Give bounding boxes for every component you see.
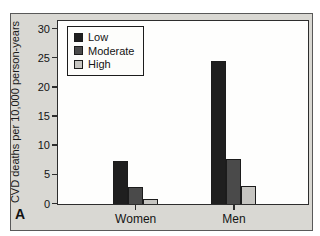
category-label-women: Women: [96, 212, 176, 226]
y-tick-mark: [52, 57, 57, 59]
bar-women-low: [113, 161, 128, 204]
y-axis-label: CVD deaths per 10,000 person-years: [9, 12, 25, 212]
legend-swatch-icon: [74, 46, 83, 55]
legend-label: Low: [88, 31, 108, 44]
y-tick-mark: [52, 115, 57, 117]
category-label-men: Men: [194, 212, 274, 226]
legend-item-moderate: Moderate: [74, 45, 134, 58]
plot-area: LowModerateHigh: [57, 20, 309, 205]
x-tick-mark: [135, 205, 137, 210]
y-tick-mark: [52, 86, 57, 88]
figure-panel: CVD deaths per 10,000 person-years LowMo…: [10, 13, 313, 231]
legend-swatch-icon: [74, 60, 83, 69]
y-tick-label: 30: [24, 22, 50, 36]
legend: LowModerateHigh: [67, 26, 144, 76]
y-tick-label: 5: [24, 167, 50, 181]
y-tick-mark: [52, 203, 57, 205]
legend-label: Moderate: [88, 45, 134, 58]
y-tick-label: 0: [24, 197, 50, 211]
y-tick-mark: [52, 174, 57, 176]
y-tick-mark: [52, 144, 57, 146]
bar-women-moderate: [128, 187, 143, 204]
legend-item-low: Low: [74, 31, 134, 44]
legend-label: High: [88, 58, 111, 71]
x-tick-mark: [233, 205, 235, 210]
legend-item-high: High: [74, 58, 134, 71]
y-tick-label: 15: [24, 109, 50, 123]
panel-label: A: [15, 206, 25, 222]
y-tick-label: 25: [24, 51, 50, 65]
bar-men-moderate: [226, 159, 241, 205]
legend-swatch-icon: [74, 33, 83, 42]
bar-men-low: [211, 61, 226, 205]
y-tick-mark: [52, 28, 57, 30]
y-tick-label: 20: [24, 80, 50, 94]
bar-women-high: [143, 199, 158, 204]
y-tick-label: 10: [24, 138, 50, 152]
bar-men-high: [241, 186, 256, 204]
